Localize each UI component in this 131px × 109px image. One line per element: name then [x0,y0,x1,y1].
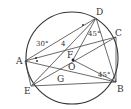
angle-label-45-b: 45° [98,71,110,79]
angle-mark-a1 [35,57,37,59]
angle-label-30: 30° [36,40,48,48]
label-g: G [57,74,64,84]
label-f: F [67,50,73,60]
label-a: A [15,56,23,66]
label-b: B [117,84,124,94]
angle-mark-a2 [36,60,38,62]
label-d: D [96,7,103,17]
segment-eb [31,82,116,86]
angle-mark-d [82,24,84,26]
label-e: E [24,86,31,96]
segment-ae [25,61,31,86]
label-o: O [68,62,75,72]
angle-label-45-d: 45° [88,30,100,38]
label-c: C [115,28,122,38]
length-label-4: 4 [61,40,66,48]
geometry-diagram: D C A E B O F G 30° 4 45° 45° [0,0,131,109]
